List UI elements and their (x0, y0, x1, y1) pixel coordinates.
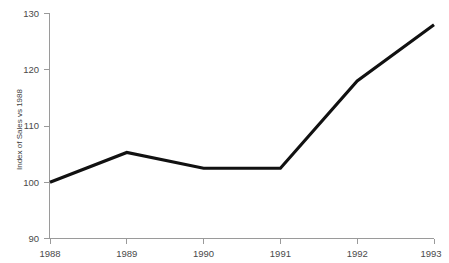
x-tick-label-1991: 1991 (270, 248, 291, 259)
chart-background (0, 0, 449, 263)
chart-canvas: 130 120 110 100 90 1988 1989 1990 1991 1… (0, 0, 449, 263)
line-chart: 130 120 110 100 90 1988 1989 1990 1991 1… (0, 0, 449, 263)
x-tick-label-1988: 1988 (39, 248, 60, 259)
x-tick-label-1989: 1989 (116, 248, 137, 259)
y-tick-label-100: 100 (23, 177, 39, 188)
y-tick-label-110: 110 (24, 120, 39, 131)
y-tick-label-120: 120 (23, 64, 39, 75)
x-tick-label-1993: 1993 (420, 248, 441, 259)
y-axis-title: Index of Sales vs 1988 (15, 89, 24, 170)
y-tick-label-90: 90 (28, 233, 39, 244)
x-tick-label-1992: 1992 (347, 248, 368, 259)
y-tick-label-130: 130 (23, 8, 39, 19)
x-tick-label-1990: 1990 (193, 248, 214, 259)
